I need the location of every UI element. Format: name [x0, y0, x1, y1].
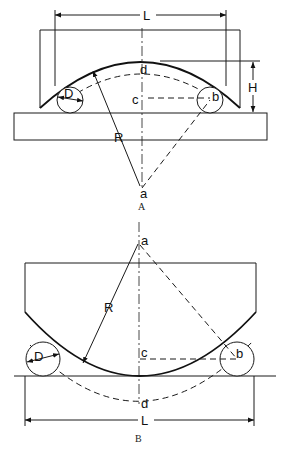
base-plate: [14, 113, 267, 140]
label-b: b: [236, 346, 243, 361]
label-r: R: [104, 300, 113, 315]
roller-radius-gauge-diagram: L D H c b d R a A: [0, 0, 287, 449]
label-c: c: [141, 345, 148, 360]
label-a: a: [141, 233, 149, 248]
label-a: a: [140, 186, 148, 201]
radius-r-arrow: [93, 71, 140, 186]
label-d: D: [34, 349, 43, 364]
caption-a: A: [138, 201, 146, 212]
label-l: L: [143, 8, 150, 23]
label-d-point: d: [140, 62, 147, 77]
figure-a: L D H c b d R a A: [14, 8, 267, 212]
caption-b: B: [135, 433, 142, 444]
label-l: L: [141, 413, 148, 428]
label-d: D: [64, 86, 73, 101]
line-a-b: [140, 245, 237, 359]
label-r: R: [114, 130, 123, 145]
label-h: H: [248, 80, 257, 95]
figure-b: D a R c b d L B: [14, 222, 276, 444]
workpiece-block: [25, 263, 256, 312]
label-c: c: [132, 92, 139, 107]
label-b: b: [212, 89, 219, 104]
label-d-point: d: [141, 396, 148, 411]
